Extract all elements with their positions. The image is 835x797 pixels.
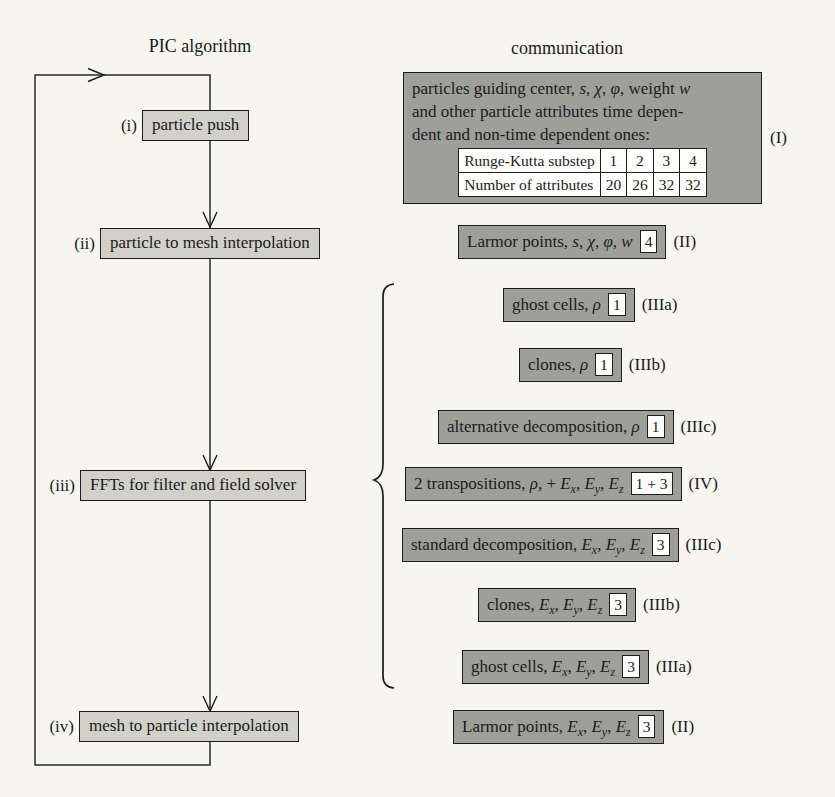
comm-text: standard decomposition, Ex, Ey, Ez [411,535,645,555]
count-badge: 3 [622,655,640,678]
comm-text: alternative decomposition, ρ [447,417,640,437]
algo-box: mesh to particle interpolation [79,711,299,742]
table-row: Number of attributes20263232 [459,173,706,197]
table-cell: 3 [653,149,680,173]
comm-label: (II) [671,717,694,737]
table-cell: 1 [600,149,627,173]
comm-label: (IIIb) [629,355,666,375]
table-cell: 32 [680,173,707,197]
count-badge: 1 + 3 [631,472,673,495]
table-cell: Runge-Kutta substep [459,149,600,173]
comm-text: Larmor points, s, χ, φ, w [467,232,633,252]
comm-label: (IV) [689,474,718,494]
algo-box: particle push [142,110,249,141]
comm-box-alternative-decomposition: alternative decomposition, ρ 1 (IIIc) [438,410,716,444]
comm-box: Larmor points, Ex, Ey, Ez 3 [453,710,664,744]
comm-box-standard-decomposition: standard decomposition, Ex, Ey, Ez 3 (II… [402,528,721,562]
count-badge: 3 [652,533,670,556]
comm-box: particles guiding center, s, χ, φ, weigh… [403,72,762,204]
algo-box: FFTs for filter and field solver [80,470,306,501]
comm-text: ghost cells, ρ [512,295,601,315]
comm-text: clones, Ex, Ey, Ez [487,595,602,615]
step-number: (iii) [50,476,76,496]
info-text-line: and other particle attributes time depen… [412,100,753,123]
comm-box: alternative decomposition, ρ 1 [438,410,674,444]
step-number: (ii) [74,234,95,254]
table-row: Runge-Kutta substep1234 [459,149,706,173]
count-badge: 1 [608,293,626,316]
comm-label: (II) [673,232,696,252]
comm-box-transpositions: 2 transpositions, ρ, + Ex, Ey, Ez 1 + 3 … [405,467,718,501]
table-cell: 32 [653,173,680,197]
column-header-pic-algorithm: PIC algorithm [149,36,252,57]
table-cell: 2 [627,149,654,173]
comm-label: (I) [770,128,787,148]
step-number: (iv) [49,717,74,737]
comm-box-larmor-points-scatter: Larmor points, s, χ, φ, w 4 (II) [458,225,696,259]
comm-label: (IIIb) [643,595,680,615]
table-cell: Number of attributes [459,173,600,197]
step-number: (i) [121,116,137,136]
comm-box: ghost cells, ρ 1 [503,288,635,322]
comm-box-ghost-cells-rho: ghost cells, ρ 1 (IIIa) [503,288,678,322]
comm-box: Larmor points, s, χ, φ, w 4 [458,225,666,259]
comm-box-particle-attributes: particles guiding center, s, χ, φ, weigh… [403,72,787,204]
comm-box: clones, Ex, Ey, Ez 3 [478,588,636,622]
comm-box-ghost-cells-efield: ghost cells, Ex, Ey, Ez 3 (IIIa) [462,650,692,684]
pic-communication-diagram: PIC algorithm communication (i) particle… [0,0,835,797]
count-badge: 1 [595,353,613,376]
algo-step-mesh-to-particle: (iv) mesh to particle interpolation [79,711,299,742]
table-cell: 20 [600,173,627,197]
comm-box: ghost cells, Ex, Ey, Ez 3 [462,650,649,684]
comm-box: 2 transpositions, ρ, + Ex, Ey, Ez 1 + 3 [405,467,682,501]
comm-label: (IIIc) [681,417,717,437]
comm-text: clones, ρ [528,355,588,375]
algo-box: particle to mesh interpolation [100,228,320,259]
count-badge: 3 [609,593,627,616]
attributes-table: Runge-Kutta substep1234Number of attribu… [458,148,706,197]
comm-label: (IIIa) [642,295,678,315]
algo-step-particle-push: (i) particle push [142,110,249,141]
comm-text: ghost cells, Ex, Ey, Ez [471,657,615,677]
comm-box: standard decomposition, Ex, Ey, Ez 3 [402,528,679,562]
count-badge: 3 [638,715,656,738]
pic-loop-outline [35,75,210,765]
algo-step-particle-to-mesh: (ii) particle to mesh interpolation [100,228,320,259]
info-text-line: particles guiding center, s, χ, φ, weigh… [412,77,753,100]
comm-box-larmor-points-gather: Larmor points, Ex, Ey, Ez 3 (II) [453,710,694,744]
comm-box-clones-rho: clones, ρ 1 (IIIb) [519,348,666,382]
comm-text: Larmor points, Ex, Ey, Ez [462,717,631,737]
comm-label: (IIIa) [656,657,692,677]
comm-label: (IIIc) [686,535,722,555]
algo-step-fft-solver: (iii) FFTs for filter and field solver [80,470,306,501]
grouping-brace [374,284,394,688]
column-header-communication: communication [511,38,623,59]
comm-text: 2 transpositions, ρ, + Ex, Ey, Ez [414,474,624,494]
table-cell: 26 [627,173,654,197]
info-text-line: dent and non-time dependent ones: [412,123,753,146]
count-badge: 4 [640,230,658,253]
count-badge: 1 [647,415,665,438]
comm-box-clones-efield: clones, Ex, Ey, Ez 3 (IIIb) [478,588,680,622]
table-cell: 4 [680,149,707,173]
comm-box: clones, ρ 1 [519,348,622,382]
